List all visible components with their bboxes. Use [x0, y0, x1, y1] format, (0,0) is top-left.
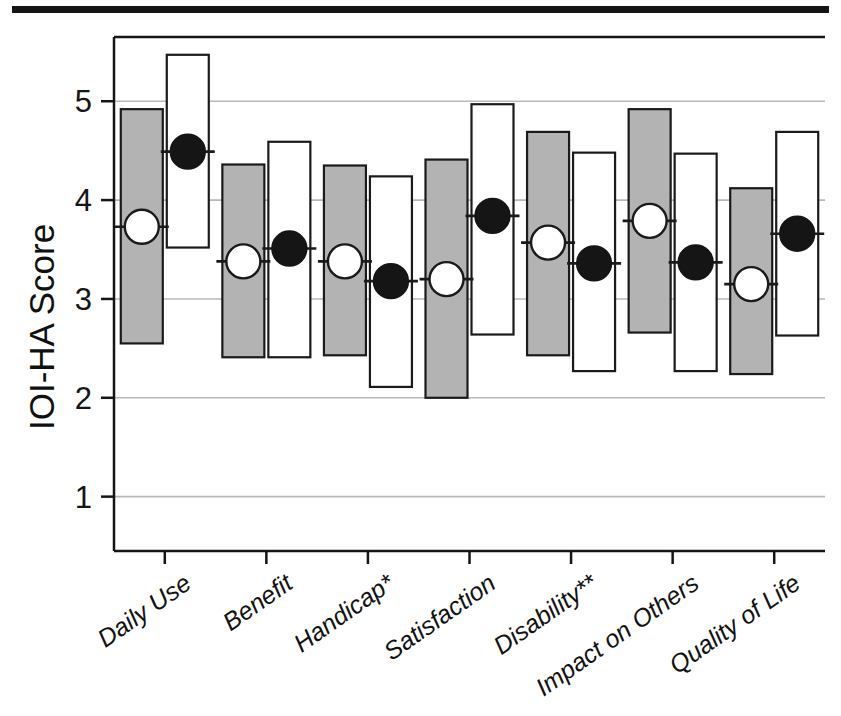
median-marker-open-circle — [734, 267, 768, 301]
y-axis-title-group: IOI-HA Score — [22, 224, 61, 430]
median-marker-filled-circle — [272, 232, 306, 266]
median-marker-open-circle — [125, 210, 159, 244]
chart-svg: 12345 IOI-HA Score Daily UseBenefitHandi… — [0, 0, 841, 716]
median-marker-filled-circle — [374, 264, 408, 298]
median-marker-filled-circle — [780, 217, 814, 251]
median-marker-open-circle — [226, 244, 260, 278]
bars-group — [115, 55, 824, 398]
y-tick-label: 4 — [75, 183, 92, 218]
x-axis-ticks — [165, 551, 774, 564]
y-tick-labels: 12345 — [75, 84, 92, 514]
median-marker-open-circle — [633, 204, 667, 238]
y-tick-label: 5 — [75, 84, 92, 119]
figure-root: 12345 IOI-HA Score Daily UseBenefitHandi… — [0, 0, 841, 716]
x-category-labels: Daily UseBenefitHandicap*SatisfactionDis… — [92, 567, 805, 701]
plot-frame — [114, 37, 825, 551]
median-marker-filled-circle — [679, 245, 713, 279]
gridlines-group — [114, 101, 825, 496]
median-marker-open-circle — [328, 244, 362, 278]
y-axis-ticks — [101, 101, 114, 496]
chart-plot-area: 12345 IOI-HA Score Daily UseBenefitHandi… — [0, 0, 841, 716]
median-marker-open-circle — [430, 262, 464, 296]
median-marker-filled-circle — [577, 246, 611, 280]
median-marker-filled-circle — [171, 135, 205, 169]
median-marker-filled-circle — [476, 199, 510, 233]
x-category-label: Satisfaction — [378, 568, 500, 665]
y-tick-label: 2 — [75, 381, 92, 416]
y-tick-label: 3 — [75, 282, 92, 317]
median-marker-open-circle — [531, 226, 565, 260]
y-axis-title: IOI-HA Score — [22, 224, 61, 430]
y-tick-label: 1 — [75, 480, 92, 515]
x-category-label: Benefit — [217, 568, 298, 636]
x-category-label: Daily Use — [92, 568, 196, 652]
